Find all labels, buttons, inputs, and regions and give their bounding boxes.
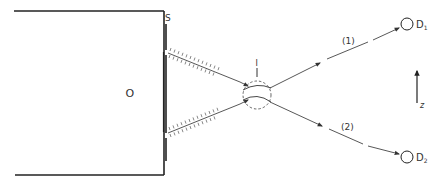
detector-2-label: D2	[416, 152, 428, 164]
detector-1-label: D1	[416, 19, 428, 31]
source-enclosure	[14, 11, 164, 175]
screen-label: S	[165, 13, 171, 23]
beam-lower-hatched	[168, 100, 248, 137]
two-slit-diagram: O S I (1) (2) D1 D2 z	[0, 0, 438, 183]
detector-1-icon	[401, 18, 413, 30]
path-2-label: (2)	[341, 122, 354, 132]
beam-upper-hatched	[168, 48, 248, 86]
source-label: O	[126, 87, 135, 100]
path-1-label: (1)	[342, 36, 355, 46]
detector-2-icon	[401, 151, 413, 163]
interference-region	[243, 68, 271, 109]
z-axis-label: z	[419, 101, 425, 110]
interference-region-label: I	[256, 59, 258, 68]
path-2	[270, 102, 399, 154]
path-1	[270, 28, 399, 88]
